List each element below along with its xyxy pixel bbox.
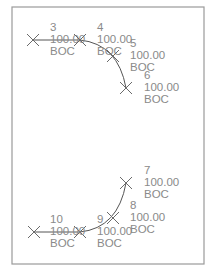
point-code-label: BOC <box>144 188 169 200</box>
point-number-label: 3 <box>50 21 56 33</box>
point-code-label: BOC <box>50 45 75 57</box>
point-elevation-label: 100.00 <box>50 225 85 237</box>
point-number-label: 7 <box>144 164 150 176</box>
point-number-label: 10 <box>50 213 63 225</box>
point-elevation-label: 100.00 <box>144 81 179 93</box>
cad-drawing-canvas[interactable]: 3100.00BOC4100.00BOC5100.00BOC6100.00BOC… <box>0 0 211 271</box>
point-code-label: BOC <box>130 61 155 73</box>
point-elevation-label: 100.00 <box>97 225 132 237</box>
point-code-label: BOC <box>50 237 75 249</box>
point-number-label: 5 <box>130 37 136 49</box>
point-elevation-label: 100.00 <box>130 211 165 223</box>
point-elevation-label: 100.00 <box>97 33 132 45</box>
point-number-label: 8 <box>130 199 136 211</box>
point-code-label: BOC <box>97 237 122 249</box>
point-number-label: 4 <box>97 21 104 33</box>
point-code-label: BOC <box>130 223 155 235</box>
point-elevation-label: 100.00 <box>144 176 179 188</box>
point-code-label: BOC <box>144 93 169 105</box>
point-elevation-label: 100.00 <box>130 49 165 61</box>
point-elevation-label: 100.00 <box>50 33 85 45</box>
point-number-label: 9 <box>97 213 103 225</box>
point-number-label: 6 <box>144 69 150 81</box>
